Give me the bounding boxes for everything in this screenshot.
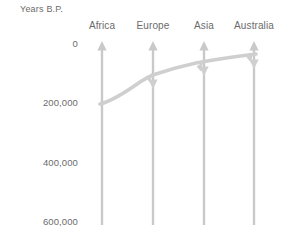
y-tick-label-400000: 400,000 — [0, 157, 78, 168]
timeline-arrowhead-asia — [199, 41, 208, 51]
y-tick-label-0: 0 — [0, 38, 78, 49]
timeline-arrowhead-europe — [148, 41, 157, 51]
chart-canvas — [0, 0, 291, 240]
migration-curve — [100, 54, 256, 104]
timeline-europe — [148, 41, 157, 225]
y-tick-label-600000: 600,000 — [0, 216, 78, 227]
migration-timeline-chart: Years B.P. 0 200,000 400,000 600,000 Afr… — [0, 0, 291, 240]
timeline-australia — [249, 41, 258, 225]
column-header-australia: Australia — [224, 20, 284, 31]
y-axis-title: Years B.P. — [20, 4, 63, 14]
timeline-africa — [97, 41, 106, 225]
y-tick-label-200000: 200,000 — [0, 97, 78, 108]
timeline-arrowhead-africa — [97, 41, 106, 51]
timeline-arrowhead-australia — [249, 41, 258, 51]
